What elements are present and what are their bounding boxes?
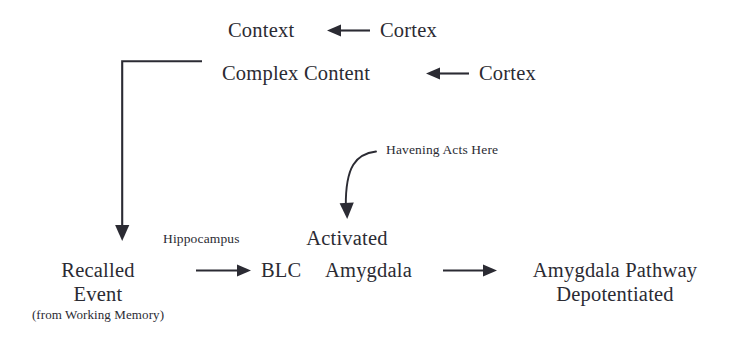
arrow-havening-to-activated-amygdala: [340, 152, 376, 220]
node-activated: Activated: [293, 226, 401, 250]
label-havening-acts-here: Havening Acts Here: [386, 142, 498, 158]
node-recalled-event: Recalled Event (from Working Memory): [8, 258, 188, 323]
diagram-canvas: Context Cortex Complex Content Cortex Ha…: [0, 0, 731, 348]
arrow-cortex-to-complex-content: [426, 68, 469, 80]
node-pathway-line2: Depotentiated: [503, 282, 727, 306]
node-amygdala: Amygdala: [325, 258, 412, 282]
node-complex-content: Complex Content: [222, 61, 370, 85]
arrow-amygdala-to-pathway: [443, 265, 497, 277]
node-cortex-second: Cortex: [479, 61, 536, 85]
node-recalled-line2: Event: [8, 282, 188, 306]
node-blc: BLC: [261, 258, 301, 282]
arrow-recalled-event-to-blc: [196, 265, 251, 277]
label-hippocampus: Hippocampus: [163, 231, 240, 247]
arrow-cortex-to-context: [327, 25, 370, 37]
node-amygdala-pathway-depotentiated: Amygdala Pathway Depotentiated: [503, 258, 727, 306]
node-context: Context: [228, 18, 294, 42]
arrow-complex-content-to-recalled-event: [115, 61, 202, 241]
node-recalled-line1: Recalled: [8, 258, 188, 282]
node-working-memory-note: (from Working Memory): [8, 307, 188, 322]
node-cortex-top: Cortex: [380, 18, 437, 42]
node-pathway-line1: Amygdala Pathway: [503, 258, 727, 282]
